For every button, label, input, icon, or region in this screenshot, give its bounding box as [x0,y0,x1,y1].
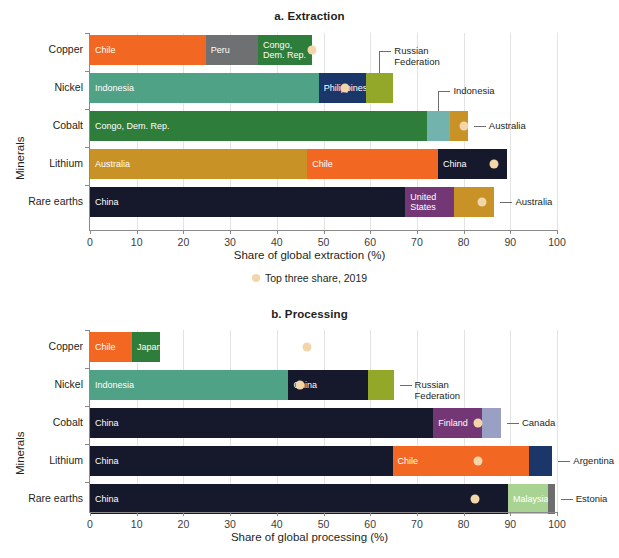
bar-row[interactable]: ChinaUnited States [90,187,557,217]
y-tick [85,444,90,445]
y-category-label-cobalt: Cobalt [0,119,83,131]
bar-segment-estonia[interactable] [548,484,555,514]
panel-extraction: a. Extraction Minerals CopperChilePeruCo… [0,0,619,290]
x-tick [183,230,184,234]
segment-label: China [90,197,119,208]
bar-segment-indonesia[interactable]: Indonesia [90,370,288,400]
segment-label: Congo, Dem. Rep. [90,121,170,132]
callout-label-russian-federation: Russian Federation [394,45,439,67]
segment-label: Peru [206,45,230,56]
bar-segment-canada[interactable] [482,408,501,438]
bar-row[interactable]: AustraliaChileChina [90,149,557,179]
x-tick [137,512,138,516]
x-tick-label: 60 [364,236,376,248]
x-tick-label: 30 [224,518,236,530]
segment-label: China [438,159,467,170]
y-category-label-lithium: Lithium [0,454,83,466]
chart-legend: Top three share, 2019 [0,272,619,284]
bar-segment-indonesia[interactable] [427,111,449,141]
bar-segment-united-states[interactable]: United States [405,187,454,217]
x-tick-label: 80 [458,236,470,248]
x-tick-label: 100 [548,518,566,530]
bar-segment-australia[interactable]: Australia [90,149,307,179]
top-three-share-marker [296,381,305,390]
bar-segment-chile[interactable]: Chile [393,446,529,476]
bar-segment-congo-dem-rep-[interactable]: Congo, Dem. Rep. [258,35,312,65]
bar-segment-china[interactable]: China [90,484,508,514]
y-tick [85,71,90,72]
y-tick [85,406,90,407]
x-tick-label: 40 [271,518,283,530]
top-three-share-marker [459,122,468,131]
x-tick [370,512,371,516]
y-category-label-cobalt: Cobalt [0,416,83,428]
bar-row[interactable]: IndonesiaChina [90,370,557,400]
segment-label: Congo, Dem. Rep. [258,40,306,61]
y-category-label-rare-earths: Rare earths [0,492,83,504]
bar-segment-japan[interactable]: Japan [132,332,160,362]
y-tick [85,185,90,186]
x-tick [464,512,465,516]
x-tick [277,512,278,516]
x-tick [90,512,91,516]
dot-marker-icon [252,274,260,282]
bar-row[interactable]: ChinaChile [90,446,557,476]
bar-segment-argentina[interactable] [529,446,552,476]
bar-segment-congo-dem-rep-[interactable]: Congo, Dem. Rep. [90,111,427,141]
callout-label-indonesia: Indonesia [453,85,494,96]
y-category-label-nickel: Nickel [0,378,83,390]
x-tick-label: 0 [87,236,93,248]
bar-segment-china[interactable]: China [90,446,393,476]
x-tick-label: 50 [318,518,330,530]
segment-label: Australia [90,159,130,170]
bar-segment-chile[interactable]: Chile [90,332,132,362]
y-tick [85,109,90,110]
callout-label-estonia: Estonia [576,493,608,504]
top-three-share-marker [489,160,498,169]
bar-row[interactable]: ChilePeruCongo, Dem. Rep. [90,35,557,65]
segment-label: United States [405,192,436,213]
y-category-label-lithium: Lithium [0,157,83,169]
bar-segment-russian-federation[interactable] [368,370,394,400]
x-tick [417,230,418,234]
segment-label: Malaysia [508,494,549,505]
x-tick-label: 90 [504,236,516,248]
x-tick-label: 10 [131,236,143,248]
x-tick [370,230,371,234]
bar-row[interactable]: ChinaFinland [90,408,557,438]
x-tick-label: 100 [548,236,566,248]
x-tick [557,512,558,516]
bar-segment-malaysia[interactable]: Malaysia [508,484,548,514]
x-tick [183,512,184,516]
x-tick-label: 50 [318,236,330,248]
bar-row[interactable]: Congo, Dem. Rep. [90,111,557,141]
gridline [557,33,558,230]
panel-a-plot-area: CopperChilePeruCongo, Dem. Rep.NickelRus… [90,33,557,230]
top-three-share-marker [307,46,316,55]
bar-segment-chile[interactable]: Chile [307,149,438,179]
y-category-label-copper: Copper [0,43,83,55]
gridline [557,330,558,512]
bar-segment-china[interactable]: China [90,187,405,217]
callout-leader [379,51,380,73]
panel-b-x-axis-title: Share of global processing (%) [0,531,619,543]
bar-segment-chile[interactable]: Chile [90,35,206,65]
segment-label: Chile [393,456,419,467]
y-category-label-copper: Copper [0,340,83,352]
bar-segment-china[interactable]: China [90,408,433,438]
segment-label: Chile [90,342,116,353]
callout-leader [558,461,570,462]
callout-leader [561,499,573,500]
bar-segment-russian-federation[interactable] [366,73,393,103]
bar-segment-indonesia[interactable]: Indonesia [90,73,319,103]
bar-row[interactable]: ChinaMalaysia [90,484,557,514]
x-tick [230,512,231,516]
panel-a-title: a. Extraction [0,10,619,22]
segment-label: Chile [307,159,333,170]
panel-processing: b. Processing Minerals CopperChileJapanN… [0,300,619,558]
bar-segment-australia[interactable] [454,187,494,217]
y-tick [85,330,90,331]
bar-row[interactable]: ChileJapan [90,332,557,362]
panel-b-title: b. Processing [0,308,619,320]
bar-segment-peru[interactable]: Peru [206,35,258,65]
